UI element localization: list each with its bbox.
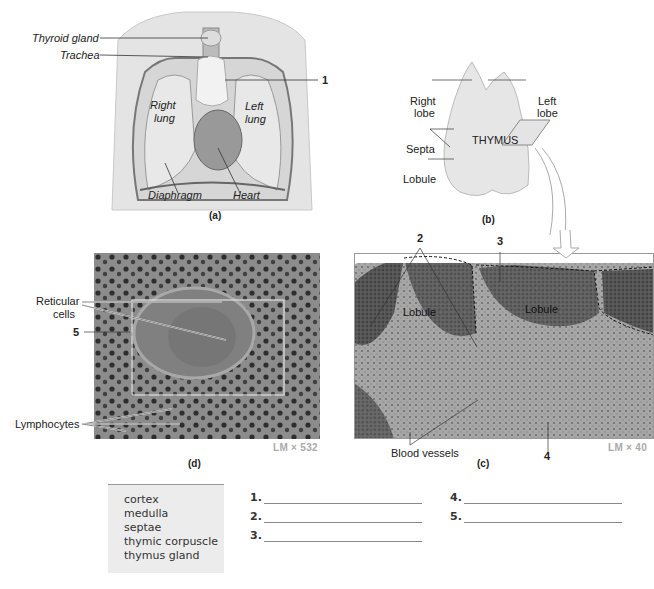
answer-4-line[interactable] — [464, 503, 622, 504]
label-heart: Heart — [233, 189, 260, 201]
label-lobule-right: Lobule — [525, 303, 558, 315]
magnification-d: LM × 532 — [273, 442, 318, 453]
callout-2: 2 — [417, 232, 423, 244]
term-thymic-corpuscle: thymic corpuscle — [124, 535, 218, 548]
answer-5[interactable]: 5. — [450, 510, 625, 524]
callout-1: 1 — [322, 74, 328, 86]
answer-2-number: 2. — [250, 510, 262, 523]
label-left-lobe-2: lobe — [537, 107, 558, 119]
label-thyroid-gland: Thyroid gland — [32, 32, 99, 44]
caption-a: (a) — [209, 210, 221, 221]
answer-2[interactable]: 2. — [250, 510, 425, 524]
callout-5: 5 — [73, 326, 79, 338]
label-thymus: THYMUS — [472, 134, 518, 146]
label-left-lung-1: Left — [245, 100, 263, 112]
label-reticular-1: Reticular — [36, 295, 79, 307]
label-left-lobe-1: Left — [538, 95, 556, 107]
label-right-lobe-2: lobe — [414, 107, 435, 119]
panel-c-leaders — [320, 230, 654, 470]
label-right-lobe-1: Right — [410, 95, 436, 107]
term-thymus-gland: thymus gland — [124, 549, 199, 562]
callout-3: 3 — [497, 235, 503, 247]
caption-b: (b) — [482, 214, 495, 225]
label-left-lung-2: lung — [245, 113, 266, 125]
callout-4: 4 — [544, 450, 550, 462]
label-lymphocytes: Lymphocytes — [15, 418, 79, 430]
answer-3-number: 3. — [250, 529, 262, 542]
magnification-c: LM × 40 — [608, 442, 647, 453]
label-diaphragm: Diaphragm — [148, 189, 202, 201]
term-septae: septae — [124, 521, 161, 534]
answer-3-line[interactable] — [264, 541, 422, 542]
term-medulla: medulla — [124, 507, 168, 520]
caption-c: (c) — [477, 458, 489, 469]
label-lobule-left: Lobule — [403, 306, 436, 318]
label-blood-vessels: Blood vessels — [391, 447, 459, 459]
answer-4[interactable]: 4. — [450, 491, 625, 505]
answer-3[interactable]: 3. — [250, 529, 425, 543]
answer-1-number: 1. — [250, 491, 262, 504]
label-lobule: Lobule — [403, 173, 436, 185]
answer-1-line[interactable] — [264, 503, 422, 504]
answer-4-number: 4. — [450, 491, 462, 504]
term-bank: cortex medulla septae thymic corpuscle t… — [108, 484, 224, 573]
label-trachea: Trachea — [60, 49, 100, 61]
label-right-lung-2: lung — [154, 112, 175, 124]
answer-1[interactable]: 1. — [250, 491, 425, 505]
panel-b-illustration — [380, 20, 580, 240]
answer-2-line[interactable] — [264, 522, 422, 523]
answer-5-number: 5. — [450, 510, 462, 523]
label-reticular-2: cells — [53, 308, 75, 320]
label-right-lung-1: Right — [150, 99, 176, 111]
answer-5-line[interactable] — [464, 522, 622, 523]
thymus-drawing — [380, 20, 580, 240]
term-cortex: cortex — [124, 493, 159, 506]
label-septa: Septa — [406, 143, 435, 155]
caption-d: (d) — [188, 458, 201, 469]
